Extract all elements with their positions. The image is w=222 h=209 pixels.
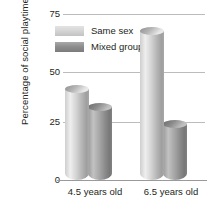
bar-body: [65, 89, 89, 180]
x-tick-4-5-years: 4.5 years old: [57, 186, 133, 202]
y-axis-tick-labels: 75 50 25 0: [16, 14, 60, 180]
y-tick-25: 25: [20, 116, 60, 127]
bar-mixed-group-4-5: [88, 103, 112, 180]
x-axis-line: [57, 180, 207, 181]
legend-label-same-sex: Same sex: [91, 25, 133, 36]
gridline-75: [63, 14, 205, 15]
bar-mixed-group-6-5: [163, 120, 187, 180]
legend-swatch-icon-same-sex: [55, 26, 84, 36]
bar-same-sex-4-5: [65, 85, 89, 180]
bar-body: [88, 107, 112, 180]
bar-body: [140, 31, 164, 180]
bar-cap: [88, 103, 112, 111]
gridline-50: [63, 72, 205, 73]
x-axis-tick-labels: 4.5 years old 6.5 years old: [57, 186, 209, 202]
x-tick-6-5-years: 6.5 years old: [133, 186, 209, 202]
bar-body: [163, 124, 187, 180]
y-tick-75: 75: [20, 8, 60, 19]
legend-swatch-icon-mixed-group: [55, 42, 84, 52]
legend-label-mixed-group: Mixed group: [91, 41, 143, 52]
bar-cap: [65, 85, 89, 93]
legend-item-mixed-group: Mixed group: [55, 40, 143, 53]
y-tick-50: 50: [20, 66, 60, 77]
y-tick-0: 0: [20, 174, 60, 185]
legend-item-same-sex: Same sex: [55, 24, 143, 37]
legend: Same sex Mixed group: [55, 24, 143, 56]
bar-chart: Percentage of social playtime 75 50 25 0: [0, 0, 222, 209]
bar-same-sex-6-5: [140, 27, 164, 180]
